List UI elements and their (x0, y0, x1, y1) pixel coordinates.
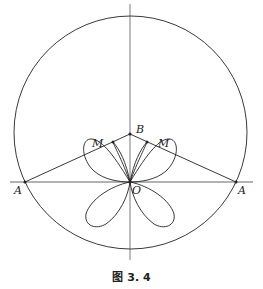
point-B (129, 133, 132, 136)
label-A-right: A (238, 185, 246, 196)
upper-right-lobe (130, 139, 176, 182)
point-A-left (24, 181, 27, 184)
outer-circle (14, 16, 247, 249)
curve-O-M-right (130, 142, 147, 182)
label-A-left: A (14, 185, 22, 196)
figure-diagram (0, 0, 263, 289)
label-O: O (132, 185, 141, 196)
label-M-right: M (158, 138, 169, 149)
label-B: B (136, 124, 144, 135)
lower-left-lobe (86, 182, 130, 227)
point-M-left (112, 141, 115, 144)
point-M-right (146, 141, 149, 144)
segment-A-B-A (25, 134, 236, 182)
curve-O-M-left (113, 142, 130, 182)
label-M-left: M (92, 138, 103, 149)
figure-caption: 图 3. 4 (0, 268, 263, 284)
upper-left-lobe (84, 139, 130, 182)
